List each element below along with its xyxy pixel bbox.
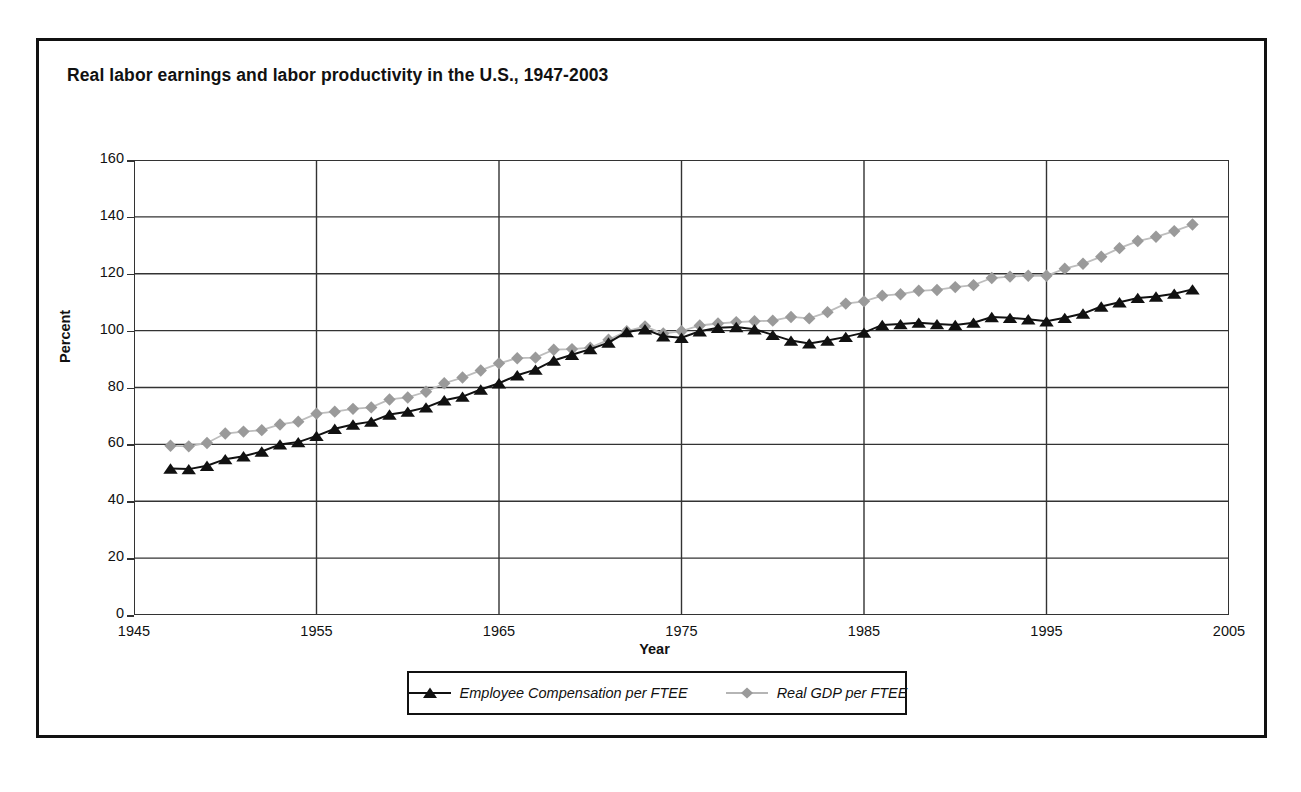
x-tick-label: 2005 (1194, 623, 1264, 639)
legend-item-real-gdp: Real GDP per FTEE (724, 685, 908, 701)
x-tick-label: 1995 (1012, 623, 1082, 639)
y-tick-label: 80 (66, 378, 124, 394)
y-tick-label: 0 (66, 605, 124, 621)
x-tick-label: 1945 (99, 623, 169, 639)
chart-canvas (134, 160, 1229, 615)
y-tick-label: 60 (66, 434, 124, 450)
x-tick-label: 1985 (829, 623, 899, 639)
y-tick-mark (127, 160, 134, 162)
y-tick-label: 140 (66, 207, 124, 223)
chart-legend: Employee Compensation per FTEE Real GDP … (407, 671, 907, 715)
y-tick-label: 100 (66, 321, 124, 337)
x-tick-label: 1955 (282, 623, 352, 639)
y-tick-mark (127, 274, 134, 276)
y-tick-mark (127, 331, 134, 333)
y-tick-label: 120 (66, 264, 124, 280)
x-tick-label: 1965 (464, 623, 534, 639)
y-tick-label: 160 (66, 150, 124, 166)
y-tick-mark (127, 615, 134, 617)
y-tick-mark (127, 444, 134, 446)
plot-wrap (134, 160, 1229, 615)
figure-page: Real labor earnings and labor productivi… (0, 0, 1301, 792)
y-tick-mark (127, 501, 134, 503)
x-tick-label: 1975 (647, 623, 717, 639)
legend-label-real-gdp: Real GDP per FTEE (777, 685, 908, 701)
diamond-marker-icon (724, 686, 770, 700)
y-tick-label: 40 (66, 491, 124, 507)
y-tick-mark (127, 217, 134, 219)
x-axis-title: Year (39, 641, 1270, 657)
y-tick-label: 20 (66, 548, 124, 564)
legend-label-employee-compensation: Employee Compensation per FTEE (460, 685, 688, 701)
y-tick-mark (127, 558, 134, 560)
y-tick-mark (127, 388, 134, 390)
triangle-marker-icon (407, 686, 453, 700)
legend-item-employee-compensation: Employee Compensation per FTEE (407, 685, 688, 701)
chart-title: Real labor earnings and labor productivi… (67, 65, 608, 86)
figure-frame: Real labor earnings and labor productivi… (36, 38, 1267, 738)
